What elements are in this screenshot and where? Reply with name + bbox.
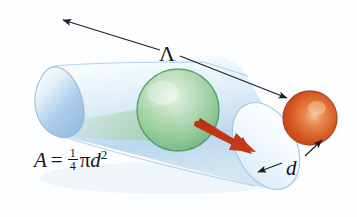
green-sphere-highlight — [147, 81, 179, 105]
orange-target-molecule-sphere — [283, 91, 337, 145]
green-molecule-sphere — [137, 69, 219, 151]
orange-sphere-highlight — [308, 101, 326, 115]
diagram-canvas — [0, 0, 357, 217]
figure-root: Λ d A = 1 4 π d 2 — [0, 0, 357, 217]
